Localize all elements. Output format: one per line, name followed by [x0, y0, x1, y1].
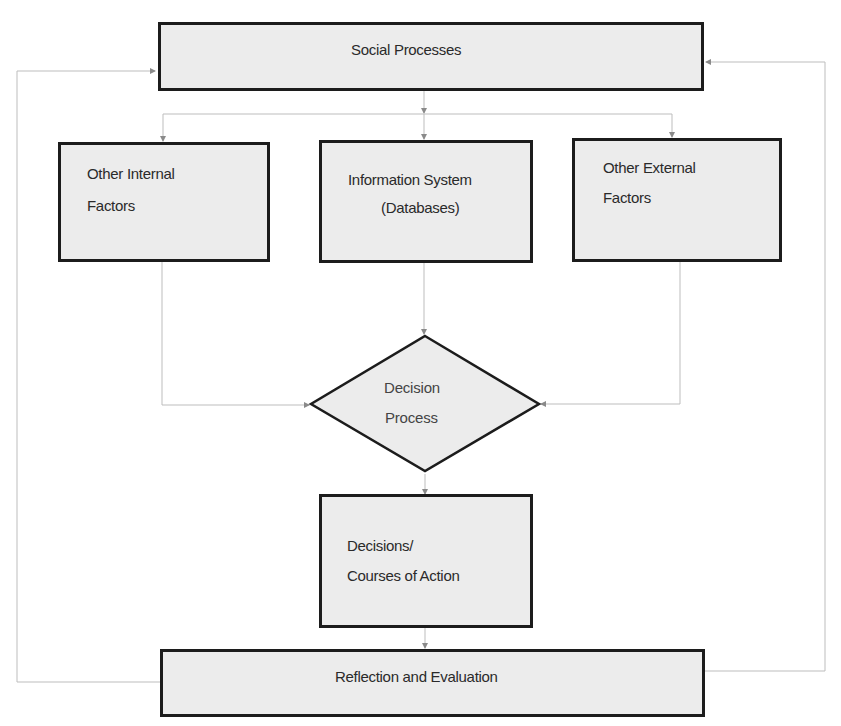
node-information-system-label-line2: (Databases): [381, 199, 459, 216]
node-decisions-courses-of-action: Decisions/ Courses of Action: [319, 494, 533, 628]
node-other-external-label-line2: Factors: [603, 189, 651, 206]
node-social-processes-label: Social Processes: [351, 41, 461, 58]
node-information-system-label-line1: Information System: [348, 171, 472, 188]
node-information-system: Information System (Databases): [319, 140, 533, 263]
node-social-processes: Social Processes: [158, 22, 704, 91]
node-other-internal-label-line1: Other Internal: [87, 165, 175, 182]
node-reflection-label: Reflection and Evaluation: [335, 668, 498, 685]
connector-external-to-decision: [541, 262, 680, 404]
decision-process-label-line2: Process: [385, 409, 438, 426]
node-other-internal-factors: Other Internal Factors: [58, 142, 270, 262]
decision-process-diamond: [311, 336, 539, 471]
node-other-internal-label-line2: Factors: [87, 197, 135, 214]
node-other-external-label-line1: Other External: [603, 159, 696, 176]
node-decisions-label-line1: Decisions/: [347, 537, 413, 554]
connector-internal-to-decision: [162, 262, 309, 405]
flowchart-canvas: Social Processes Other Internal Factors …: [0, 0, 841, 726]
node-reflection-and-evaluation: Reflection and Evaluation: [160, 649, 705, 717]
node-other-external-factors: Other External Factors: [572, 138, 782, 262]
node-decisions-label-line2: Courses of Action: [347, 567, 459, 584]
decision-process-label-line1: Decision: [384, 379, 440, 396]
